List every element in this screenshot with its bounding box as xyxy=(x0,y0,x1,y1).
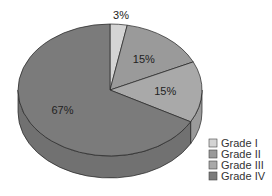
legend-swatch xyxy=(209,150,217,158)
legend-swatch xyxy=(209,172,217,180)
pie-chart: 3%15%15%67% Grade IGrade IIGrade IIIGrad… xyxy=(0,0,272,196)
slice-label: 15% xyxy=(133,53,155,65)
slice-label: 67% xyxy=(51,104,73,116)
slice-label: 3% xyxy=(113,9,129,21)
slice-label: 15% xyxy=(154,85,176,97)
pie-slices xyxy=(18,24,202,178)
legend-swatch xyxy=(209,139,217,147)
legend-label: Grade IV xyxy=(221,170,266,182)
legend: Grade IGrade IIGrade IIIGrade IV xyxy=(209,137,266,182)
legend-swatch xyxy=(209,161,217,169)
